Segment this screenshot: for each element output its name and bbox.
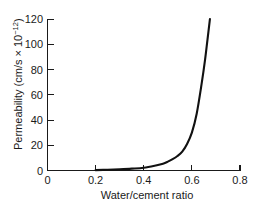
y-tick-label-0: 0 <box>37 165 43 177</box>
y-tick-label-120: 120 <box>25 13 43 25</box>
axis-spines <box>48 19 241 171</box>
x-tick-label-0p2: 0.2 <box>88 174 103 186</box>
y-axis-ticks <box>48 19 54 170</box>
y-tick-label-80: 80 <box>31 64 43 76</box>
svg-text:Permeability (cm/s × 10−12): Permeability (cm/s × 10−12) <box>11 18 24 150</box>
y-axis-title-close: ) <box>12 18 24 22</box>
x-tick-label-0: 0 <box>44 174 50 186</box>
y-axis-title-base: Permeability (cm/s × 10 <box>12 35 24 150</box>
y-axis-title-exponent: −12 <box>11 22 20 35</box>
y-axis-tick-labels: 0 20 40 60 80 100 120 <box>25 13 43 176</box>
y-axis-title: Permeability (cm/s × 10−12) <box>11 18 24 150</box>
x-axis-title: Water/cement ratio <box>101 189 194 201</box>
y-tick-label-60: 60 <box>31 89 43 101</box>
chart-figure: Permeability (cm/s × 10−12) 0 20 40 60 8… <box>0 0 260 207</box>
permeability-line-chart: Permeability (cm/s × 10−12) 0 20 40 60 8… <box>0 0 260 207</box>
x-tick-label-0p8: 0.8 <box>232 174 247 186</box>
permeability-curve <box>96 19 210 170</box>
y-tick-label-100: 100 <box>25 38 43 50</box>
y-tick-label-20: 20 <box>31 139 43 151</box>
x-tick-label-0p6: 0.6 <box>184 174 199 186</box>
y-tick-label-40: 40 <box>31 114 43 126</box>
x-axis-tick-labels: 0 0.2 0.4 0.6 0.8 <box>44 174 247 186</box>
x-tick-label-0p4: 0.4 <box>136 174 151 186</box>
